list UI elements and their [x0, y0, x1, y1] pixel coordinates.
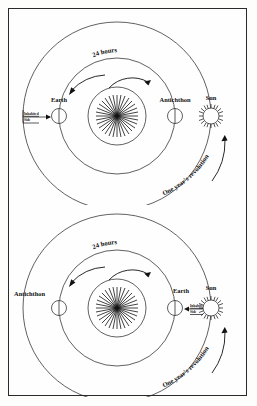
- antichthon-label: Antichthon: [14, 290, 45, 297]
- diagram-top: Earth Inhabited Side Antichthon: [9, 9, 248, 205]
- revolution-arrow: [212, 327, 228, 373]
- inhabited-side-label-line1: Inhabited: [24, 112, 39, 116]
- figure-frame: Earth Inhabited Side Antichthon: [8, 8, 247, 396]
- central-fire-starburst-icon: [96, 95, 138, 137]
- antichthon-label: Antichthon: [160, 96, 191, 103]
- diagram-bottom: Antichthon Earth Inhabited Side: [9, 201, 248, 397]
- central-fire-starburst-icon: [96, 287, 138, 329]
- rotation-arrow-inner: [109, 78, 151, 88]
- revolution-label: One year's revolution: [161, 345, 210, 389]
- sun-label: Sun: [206, 94, 217, 101]
- inhabited-side-label-line2: Side: [190, 310, 197, 314]
- earth-label: Earth: [51, 96, 67, 103]
- earth-label: Earth: [173, 287, 189, 294]
- rotation-label: 24 hours: [91, 46, 117, 58]
- inhabited-side-label-line2: Side: [24, 118, 31, 122]
- diagram-bottom-svg: Antichthon Earth Inhabited Side: [9, 201, 248, 397]
- rotation-arrow-outer: [69, 75, 105, 95]
- sun-label: Sun: [206, 284, 217, 291]
- sun-body-group: [199, 104, 223, 128]
- diagram-top-svg: Earth Inhabited Side Antichthon: [9, 9, 248, 205]
- rotation-label: 24 hours: [91, 238, 117, 250]
- inhabited-side-annotation: Inhabited Side: [184, 304, 205, 315]
- sun-body: [203, 108, 219, 124]
- inhabited-side-annotation: Inhabited Side: [23, 110, 51, 123]
- revolution-label: One year's revolution: [161, 153, 210, 197]
- sun-body-group: [199, 296, 223, 320]
- sun-body: [203, 300, 219, 316]
- revolution-arrow: [212, 135, 228, 181]
- rotation-arrow-outer: [69, 267, 105, 287]
- figure-page: Earth Inhabited Side Antichthon: [0, 0, 257, 406]
- rotation-arrow-inner: [109, 270, 151, 280]
